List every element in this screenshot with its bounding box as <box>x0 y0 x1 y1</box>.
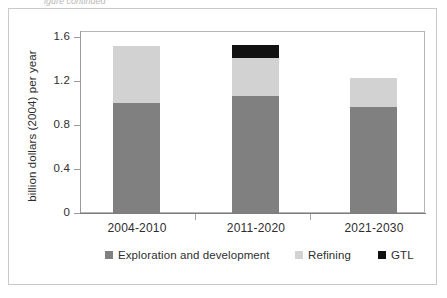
bar-segment-gtl <box>232 45 279 58</box>
bar-segment-refining <box>113 46 160 103</box>
y-tick-label-1.2: 1.2 <box>26 74 70 88</box>
legend-swatch-icon-refining <box>295 251 303 259</box>
legend-swatch-icon-exploration-and-development <box>105 251 113 259</box>
bar-group-2004-2010 <box>113 46 160 213</box>
bar-segment-exploration-and-development <box>350 107 397 213</box>
bar-segment-exploration-and-development <box>113 103 160 213</box>
legend-item-exploration-and-development[interactable]: Exploration and development <box>105 249 270 261</box>
y-axis-line <box>80 31 81 214</box>
x-tick-label-2021-2030: 2021-2030 <box>314 221 434 235</box>
chart-legend: Exploration and development Refining GTL <box>80 249 425 265</box>
legend-swatch-icon-gtl <box>378 251 386 259</box>
clipped-caption-text: igure continued <box>44 0 106 6</box>
chart-figure: igure continued billion dollars (2004) p… <box>0 0 447 298</box>
y-tick-label-0: 0 <box>26 206 70 220</box>
bar-group-2011-2020 <box>232 45 279 213</box>
legend-label-gtl: GTL <box>391 249 414 261</box>
y-tick-label-0.8: 0.8 <box>26 118 70 132</box>
bar-segment-refining <box>232 58 279 96</box>
bar-group-2021-2030 <box>350 78 397 213</box>
legend-label-exploration-and-development: Exploration and development <box>118 249 270 261</box>
x-tick-label-2004-2010: 2004-2010 <box>77 221 197 235</box>
clipped-caption-strip: igure continued <box>0 0 447 7</box>
x-tick-label-2011-2020: 2011-2020 <box>196 221 316 235</box>
legend-item-refining[interactable]: Refining <box>295 249 351 261</box>
y-tick-label-0.4: 0.4 <box>26 162 70 176</box>
bar-segment-exploration-and-development <box>232 96 279 213</box>
x-axis-line <box>80 213 426 214</box>
y-tick-label-1.6: 1.6 <box>26 30 70 44</box>
x-tick-mark-2 <box>310 214 311 220</box>
legend-item-gtl[interactable]: GTL <box>378 249 414 261</box>
x-tick-mark-1 <box>195 214 196 220</box>
legend-label-refining: Refining <box>308 249 351 261</box>
bar-segment-refining <box>350 78 397 107</box>
